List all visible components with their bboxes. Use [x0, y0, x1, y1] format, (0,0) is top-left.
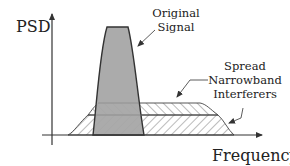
- psd-diagram: PSD Frequency Original Signal Spread Nar…: [0, 0, 290, 166]
- interferers-label-line1: Spread: [224, 59, 266, 73]
- y-axis-label: PSD: [16, 17, 51, 36]
- original-signal-shape: [93, 27, 144, 135]
- x-axis-label: Frequency: [212, 146, 290, 165]
- interferers-label-line3: Interferers: [213, 87, 277, 101]
- signal-label-line2: Signal: [158, 20, 195, 34]
- interferers-label-line2: Narrowband: [208, 73, 282, 87]
- signal-pointer-arrow: [138, 30, 155, 46]
- interferer-upper-pointer-arrow: [177, 80, 208, 97]
- interferer-lower-pointer-arrow: [229, 108, 243, 123]
- signal-label-line1: Original: [152, 6, 200, 20]
